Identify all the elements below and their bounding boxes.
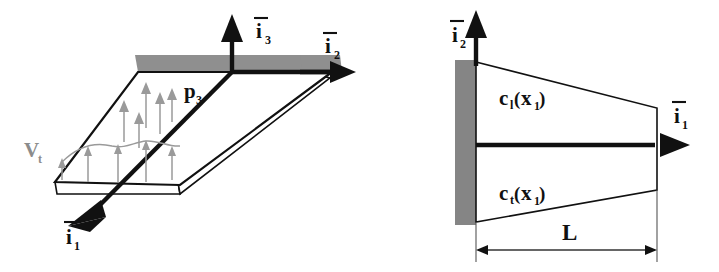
figure-root: i 3 i 2 i 1 p 3 V t xyxy=(0,0,719,272)
label-axis-i1-left-sub: 1 xyxy=(74,239,80,253)
label-span-L: L xyxy=(562,220,577,245)
dim-arrow-left xyxy=(476,245,488,255)
root-wall xyxy=(455,60,476,225)
label-axis-i1-right-base: i xyxy=(674,104,680,128)
label-chord-trailing-arg: x xyxy=(521,181,532,205)
label-chord-trailing-open-paren: ( xyxy=(514,183,520,205)
label-axis-i2-right-base: i xyxy=(452,23,458,47)
label-axis-i1-left-base: i xyxy=(66,225,72,249)
label-chord-trailing: c t ( x 1 ) xyxy=(499,181,545,208)
label-chord-leading-arg: x xyxy=(521,86,532,110)
label-chord-trailing-base: c xyxy=(499,181,508,205)
label-chord-trailing-close-paren: ) xyxy=(539,183,545,205)
label-axis-i2-left-base: i xyxy=(325,34,331,58)
label-velocity-vt: V t xyxy=(24,138,42,166)
label-chord-leading-close-paren: ) xyxy=(539,88,545,110)
axis-i3-arrowhead xyxy=(221,14,243,42)
label-chord-leading-open-paren: ( xyxy=(514,88,520,110)
label-axis-i1-right: i 1 xyxy=(672,102,688,132)
label-chord-leading: c l ( x 1 ) xyxy=(499,86,545,113)
left-diagram-svg: i 3 i 2 i 1 p 3 V t xyxy=(0,0,719,272)
dim-arrow-right xyxy=(645,245,657,255)
label-axis-i2-right: i 2 xyxy=(450,21,466,51)
label-velocity-sub: t xyxy=(38,152,42,166)
axis-i1-right-arrowhead xyxy=(660,133,690,157)
axis-i2-right-arrowhead xyxy=(465,10,487,38)
label-axis-i3-base: i xyxy=(256,19,262,43)
label-chord-leading-base: c xyxy=(499,86,508,110)
label-pressure-base: p xyxy=(184,79,196,103)
label-axis-i1-right-sub: 1 xyxy=(682,118,688,132)
label-pressure-sub: 3 xyxy=(196,93,202,107)
label-axis-i2-left-sub: 2 xyxy=(334,48,340,62)
label-axis-i3: i 3 xyxy=(254,18,271,47)
axis-i2-arrowhead xyxy=(330,61,356,83)
label-velocity-base: V xyxy=(24,138,39,162)
label-axis-i3-sub: 3 xyxy=(265,33,271,47)
label-axis-i2-right-sub: 2 xyxy=(460,37,466,51)
